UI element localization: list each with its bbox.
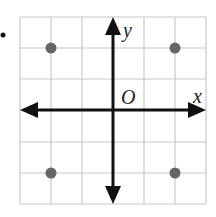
point-q3 [46, 168, 57, 179]
arrow-left-icon [20, 102, 38, 118]
arrow-down-icon [105, 186, 121, 204]
y-axis-label: y [121, 19, 132, 42]
point-q4 [170, 168, 181, 179]
point-q1 [170, 43, 181, 54]
origin-label: O [121, 86, 135, 108]
bullet-marker [1, 33, 6, 38]
arrow-up-icon [105, 17, 121, 35]
coordinate-plane: y x O [0, 0, 216, 217]
point-q2 [46, 43, 57, 54]
x-axis-label: x [192, 85, 202, 107]
